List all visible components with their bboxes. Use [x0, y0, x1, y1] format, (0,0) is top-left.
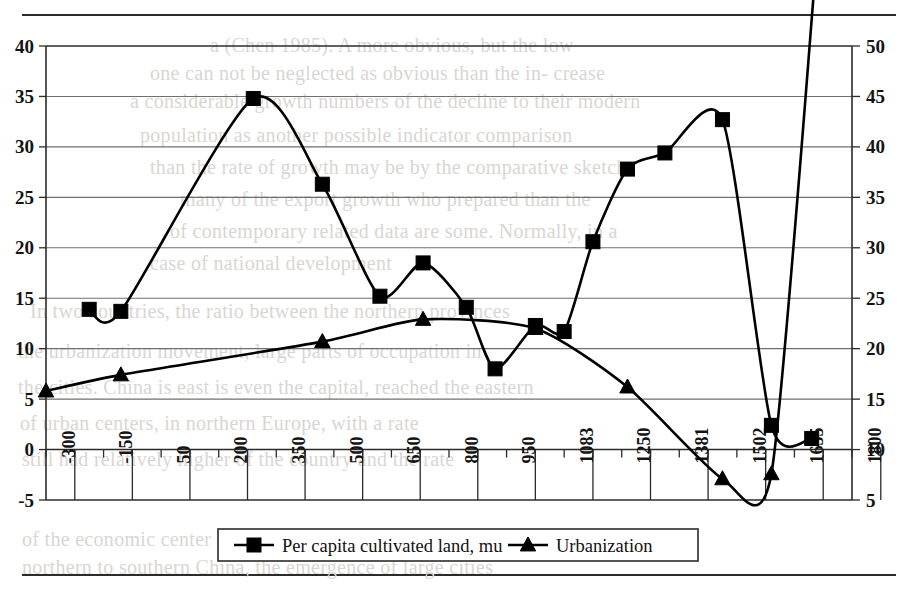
x-axis-label-1381: 1381	[692, 428, 712, 464]
marker-cultivated-land-1655	[715, 113, 729, 127]
marker-urbanization-5	[620, 379, 635, 393]
x-axis-label-1800: 1800	[865, 428, 885, 464]
x-axis-label--300: -300	[59, 431, 79, 464]
marker-cultivated-land-350	[373, 289, 387, 303]
right-axis-label-45: 45	[866, 86, 885, 107]
right-axis-label-5: 5	[866, 490, 876, 511]
right-axis-label-35: 35	[866, 187, 885, 208]
x-axis-label-650: 650	[404, 437, 424, 464]
right-axis-label-25: 25	[866, 288, 885, 309]
right-axis-label-15: 15	[866, 389, 885, 410]
marker-cultivated-land-650	[459, 300, 473, 314]
x-axis-label-50: 50	[174, 446, 194, 464]
x-axis-label-1250: 1250	[635, 428, 655, 464]
legend-marker-square	[247, 538, 261, 552]
x-axis-label-950: 950	[519, 437, 539, 464]
x-axis-label-1502: 1502	[750, 428, 770, 464]
marker-cultivated-land--150	[114, 304, 128, 318]
right-axis-label-40: 40	[866, 136, 885, 157]
left-axis-label--5: -5	[18, 490, 34, 511]
marker-cultivated-land-200	[315, 177, 329, 191]
x-axis-label-1083: 1083	[577, 428, 597, 464]
x-axis-label-500: 500	[347, 437, 367, 464]
legend-label-1: Urbanization	[556, 536, 653, 556]
left-axis-label-35: 35	[15, 86, 34, 107]
marker-cultivated-land-800	[488, 362, 502, 376]
left-axis-label-40: 40	[15, 36, 34, 57]
right-axis-label-50: 50	[866, 36, 885, 57]
left-axis-label-25: 25	[15, 187, 34, 208]
series-line-cultivated-land	[89, 96, 812, 446]
right-axis-label-20: 20	[866, 338, 885, 359]
left-axis-label-0: 0	[25, 439, 35, 460]
marker-cultivated-land-1250	[586, 235, 600, 249]
scanned-page: a (Chen 1985). A more obvious, but the l…	[0, 0, 916, 594]
marker-cultivated-land-1502	[658, 146, 672, 160]
left-axis-label-5: 5	[25, 389, 35, 410]
x-axis-label-350: 350	[289, 437, 309, 464]
marker-cultivated-land--300	[82, 302, 96, 316]
left-axis-label-10: 10	[15, 338, 34, 359]
x-axis-label-800: 800	[462, 437, 482, 464]
line-chart: -505101520253035405101520253035404550-30…	[0, 0, 916, 594]
x-axis-label-200: 200	[232, 437, 252, 464]
left-axis-label-30: 30	[15, 136, 34, 157]
marker-cultivated-land-1949	[805, 431, 819, 445]
legend-label-0: Per capita cultivated land, mu	[282, 536, 502, 556]
marker-cultivated-land-500	[416, 256, 430, 270]
x-axis-label--150: -150	[116, 431, 136, 464]
marker-cultivated-land-1381	[620, 162, 634, 176]
marker-cultivated-land-50	[246, 91, 260, 105]
left-axis-label-15: 15	[15, 288, 34, 309]
right-axis-label-30: 30	[866, 237, 885, 258]
marker-cultivated-land-1083	[557, 325, 571, 339]
chart-figure: -505101520253035405101520253035404550-30…	[0, 0, 916, 594]
left-axis-label-20: 20	[15, 237, 34, 258]
marker-urbanization-6	[715, 471, 730, 485]
